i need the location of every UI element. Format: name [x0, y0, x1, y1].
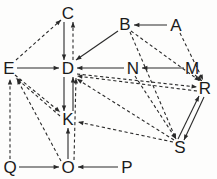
- edge-e-to-k: [15, 75, 60, 112]
- node-label-o: O: [61, 158, 74, 177]
- arrowhead-r-to-d: [77, 74, 83, 78]
- edge-r-to-s: [184, 97, 204, 140]
- edge-s-to-d: [77, 79, 174, 140]
- node-label-k: K: [62, 110, 74, 129]
- edge-s-to-k: [78, 122, 173, 142]
- node-label-b: B: [119, 15, 130, 34]
- edge-o-to-e: [17, 79, 61, 161]
- node-label-q: Q: [3, 158, 16, 177]
- graph-figure: CBAEDNMRKSQOP: [0, 0, 217, 179]
- arrowhead-q-to-e: [8, 79, 12, 84]
- node-label-s: S: [174, 138, 185, 157]
- arrowhead-b-to-d: [76, 55, 82, 60]
- edge-s-to-r: [178, 96, 199, 139]
- node-label-e: E: [3, 59, 14, 78]
- arrowhead-e-to-d: [54, 66, 59, 70]
- arrowhead-a-to-b: [134, 23, 139, 27]
- node-layer: CBAEDNMRKSQOP: [0, 4, 214, 177]
- arrowhead-p-to-o: [78, 165, 83, 169]
- node-label-c: C: [62, 4, 74, 23]
- arrowhead-s-to-k: [78, 121, 84, 125]
- edge-k-to-e: [16, 78, 60, 116]
- node-label-a: A: [170, 16, 182, 35]
- node-label-d: D: [62, 59, 74, 78]
- node-label-r: R: [199, 79, 211, 98]
- edge-e-to-c: [16, 20, 61, 60]
- node-label-n: N: [127, 59, 139, 78]
- node-label-m: M: [185, 59, 199, 78]
- edge-b-to-d: [76, 31, 118, 60]
- graph-canvas: CBAEDNMRKSQOP: [0, 0, 217, 179]
- arrowhead-n-to-d: [77, 66, 82, 70]
- edge-b-to-s: [130, 32, 176, 139]
- node-label-p: P: [121, 158, 132, 177]
- arrowhead-q-to-o: [54, 165, 59, 169]
